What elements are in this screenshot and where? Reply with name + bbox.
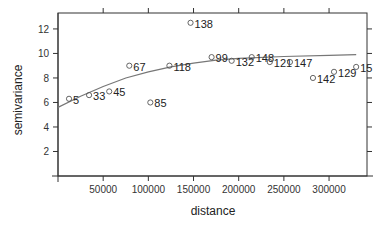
- y-tick-label: 12: [38, 24, 50, 35]
- point-marker: [209, 55, 214, 60]
- point-marker: [148, 100, 153, 105]
- y-tick-label: 10: [38, 48, 50, 59]
- point-count-label: 45: [113, 86, 125, 98]
- point-marker: [127, 63, 132, 68]
- x-tick-label: 200000: [222, 184, 256, 195]
- y-tick-label: 6: [43, 97, 49, 108]
- point-count-label: 148: [256, 52, 274, 64]
- x-tick-label: 150000: [177, 184, 211, 195]
- semivariogram-chart: 50000100000150000200000250000300000 2468…: [0, 0, 386, 227]
- y-tick-label: 4: [43, 122, 49, 133]
- point-marker: [107, 89, 112, 94]
- y-tick-label: 8: [43, 73, 49, 84]
- point-count-label: 99: [216, 52, 228, 64]
- point-count-label: 118: [173, 61, 191, 73]
- point-count-label: 5: [73, 94, 79, 106]
- x-tick-label: 250000: [267, 184, 301, 195]
- point-marker: [86, 93, 91, 98]
- y-axis: 24681012: [38, 24, 372, 158]
- point-count-label: 33: [93, 90, 105, 102]
- data-points: 5334567851181389913214812114714212915: [66, 18, 372, 110]
- x-tick-label: 100000: [132, 184, 166, 195]
- y-tick-label: 2: [43, 146, 49, 157]
- x-tick-label: 50000: [89, 184, 117, 195]
- point-marker: [188, 20, 193, 25]
- point-count-label: 67: [133, 61, 145, 73]
- x-axis: 50000100000150000200000250000300000: [89, 8, 346, 195]
- point-count-label: 121: [274, 57, 292, 69]
- point-count-label: 142: [317, 73, 335, 85]
- point-count-label: 138: [195, 18, 213, 30]
- point-count-label: 85: [154, 97, 166, 109]
- x-axis-title: distance: [191, 204, 236, 218]
- point-marker: [66, 96, 71, 101]
- point-count-label: 147: [294, 57, 312, 69]
- point-marker: [310, 75, 315, 80]
- x-tick-label: 300000: [312, 184, 346, 195]
- point-count-label: 15: [360, 62, 372, 74]
- y-axis-title: semivariance: [11, 64, 25, 135]
- point-count-label: 132: [236, 56, 254, 68]
